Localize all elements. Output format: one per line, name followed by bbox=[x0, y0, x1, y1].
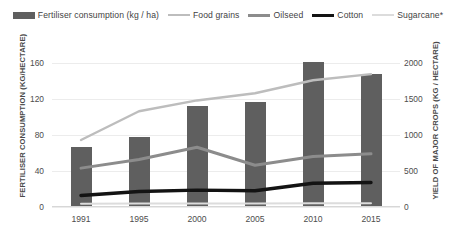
legend-item-fertiliser[interactable]: Fertiliser consumption (kg / ha) bbox=[13, 10, 159, 20]
y-axis-left-tick-label: 40 bbox=[4, 167, 44, 175]
legend-item-sugarcane[interactable]: Sugarcane* bbox=[372, 10, 443, 20]
y-axis-right-tick-label: 500 bbox=[404, 167, 444, 175]
gridline bbox=[52, 207, 400, 208]
y-axis-left-tick-label: 120 bbox=[4, 95, 44, 103]
line-series-cotton bbox=[81, 183, 371, 196]
x-axis-tick-label: 2015 bbox=[341, 214, 401, 224]
y-axis-left-title: FERTILISER CONSUMPTION (KG/HECTARE) bbox=[18, 48, 27, 198]
y-axis-left-tick-label: 80 bbox=[4, 131, 44, 139]
y-axis-right-tick-label: 1500 bbox=[404, 95, 444, 103]
legend-line-swatch-icon-sugarcane bbox=[372, 14, 394, 16]
axis-baseline bbox=[52, 206, 400, 207]
legend-label-oilseed: Oilseed bbox=[273, 10, 303, 20]
y-axis-right-tick-label: 2000 bbox=[404, 59, 444, 67]
x-axis-tick-label: 2005 bbox=[225, 214, 285, 224]
legend-item-oilseed[interactable]: Oilseed bbox=[248, 10, 303, 20]
legend-label-food-grains: Food grains bbox=[193, 10, 239, 20]
line-series-oilseed bbox=[81, 147, 371, 168]
line-series-food-grains bbox=[81, 74, 371, 140]
y-axis-right-title: YIELD OF MAJOR CROPS (KG / HECTARE) bbox=[431, 50, 440, 200]
legend-bar-swatch-icon bbox=[13, 12, 35, 19]
chart-legend: Fertiliser consumption (kg / ha) Food gr… bbox=[0, 4, 456, 26]
legend-item-food-grains[interactable]: Food grains bbox=[168, 10, 239, 20]
x-axis-tick-label: 2000 bbox=[167, 214, 227, 224]
legend-line-swatch-icon-food-grains bbox=[168, 14, 190, 16]
legend-label-cotton: Cotton bbox=[337, 10, 363, 20]
legend-label-sugarcane: Sugarcane* bbox=[397, 10, 443, 20]
y-axis-left-tick-label: 0 bbox=[4, 203, 44, 211]
y-axis-right-tick-label: 0 bbox=[404, 203, 444, 211]
x-axis-tick-label: 1991 bbox=[51, 214, 111, 224]
y-axis-right-tick-label: 1000 bbox=[404, 131, 444, 139]
legend-label-fertiliser: Fertiliser consumption (kg / ha) bbox=[38, 10, 159, 20]
legend-line-swatch-icon-cotton bbox=[312, 14, 334, 17]
y-axis-left-tick-label: 160 bbox=[4, 59, 44, 67]
line-series-layer bbox=[52, 45, 400, 207]
x-axis-tick-label: 2010 bbox=[283, 214, 343, 224]
x-axis-tick-label: 1995 bbox=[109, 214, 169, 224]
plot-area bbox=[52, 45, 400, 207]
line-series-sugarcane bbox=[81, 203, 371, 204]
legend-line-swatch-icon-oilseed bbox=[248, 14, 270, 17]
legend-item-cotton[interactable]: Cotton bbox=[312, 10, 363, 20]
chart-container: Fertiliser consumption (kg / ha) Food gr… bbox=[0, 0, 456, 245]
